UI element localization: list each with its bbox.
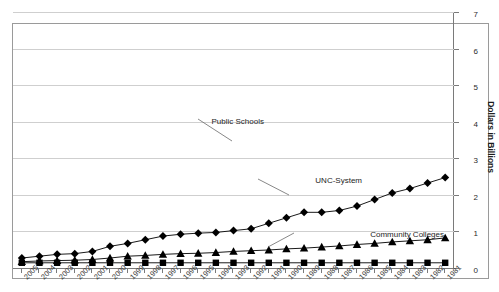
y-tick — [454, 122, 459, 123]
rotated-figure: Dollars in Billions 01234567 19811982198… — [1, 0, 499, 292]
leader-line-community-colleges — [268, 233, 294, 247]
y-tick — [454, 49, 459, 50]
y-tick-label: 0 — [460, 266, 478, 275]
annotation-community-colleges: Community Colleges — [370, 230, 444, 239]
y-tick-label: 6 — [460, 47, 478, 56]
annotation-unc-system: UNC-System — [315, 176, 362, 185]
y-tick — [454, 195, 459, 196]
y-tick-label: 2 — [460, 193, 478, 202]
y-tick-label: 5 — [460, 83, 478, 92]
y-axis-title: Dollars in Billions — [486, 101, 496, 173]
plot-area: Dollars in Billions 01234567 19811982198… — [13, 13, 454, 269]
y-tick — [454, 12, 459, 13]
y-tick-label: 3 — [460, 156, 478, 165]
annotation-public-schools: Public Schools — [212, 117, 264, 126]
leader-line-unc-system — [258, 179, 289, 195]
y-tick-label: 1 — [460, 229, 478, 238]
chart-canvas: Dollars in Billions 01234567 19811982198… — [0, 0, 499, 292]
y-tick — [454, 85, 459, 86]
y-tick-label: 7 — [460, 10, 478, 19]
x-tick — [21, 269, 22, 273]
y-tick — [454, 158, 459, 159]
y-tick-label: 4 — [460, 120, 478, 129]
y-tick — [454, 231, 459, 232]
